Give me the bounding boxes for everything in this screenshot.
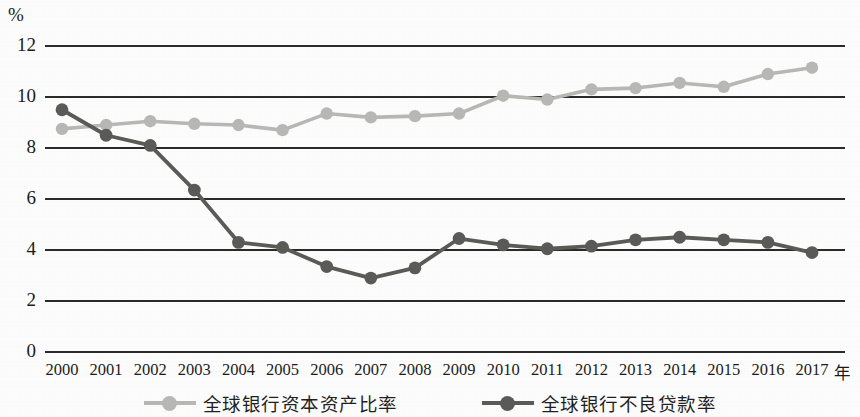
x-axis-tick-label: 2004 <box>216 360 260 380</box>
data-point-capital-asset-ratio <box>144 115 156 127</box>
data-point-capital-asset-ratio <box>585 83 597 95</box>
x-axis-tick-label: 2017 <box>790 360 834 380</box>
chart-figure: % 024681012 2000200120022003200420052006… <box>0 0 860 417</box>
x-axis-tick-label: 2012 <box>569 360 613 380</box>
data-point-npl-ratio <box>497 239 510 252</box>
x-axis-tick-label: 2009 <box>437 360 481 380</box>
data-point-npl-ratio <box>276 241 289 254</box>
data-point-capital-asset-ratio <box>806 61 818 73</box>
x-axis-tick-label: 2005 <box>261 360 305 380</box>
data-point-capital-asset-ratio <box>762 68 774 80</box>
data-point-capital-asset-ratio <box>718 81 730 93</box>
data-point-npl-ratio <box>320 260 333 273</box>
x-axis-tick-label: 2014 <box>658 360 702 380</box>
data-point-npl-ratio <box>364 272 377 285</box>
data-point-npl-ratio <box>806 246 819 259</box>
plot-area <box>0 0 860 417</box>
data-point-npl-ratio <box>717 233 730 246</box>
data-point-npl-ratio <box>541 242 554 255</box>
legend-label-capital-asset-ratio: 全球银行资本资产比率 <box>203 390 398 416</box>
x-axis-tick-label: 2001 <box>84 360 128 380</box>
x-axis-unit-label: 年 <box>834 360 851 384</box>
data-point-npl-ratio <box>188 184 201 197</box>
data-point-capital-asset-ratio <box>188 118 200 130</box>
data-point-npl-ratio <box>673 231 686 244</box>
data-point-npl-ratio <box>585 240 598 253</box>
data-point-npl-ratio <box>100 129 113 142</box>
data-point-capital-asset-ratio <box>321 107 333 119</box>
data-point-npl-ratio <box>453 232 466 245</box>
data-point-capital-asset-ratio <box>232 119 244 131</box>
x-axis-tick-label: 2015 <box>702 360 746 380</box>
data-point-npl-ratio <box>629 233 642 246</box>
data-point-capital-asset-ratio <box>629 82 641 94</box>
legend-label-npl-ratio: 全球银行不良贷款率 <box>541 390 717 416</box>
legend-item-capital-asset-ratio[interactable]: 全球银行资本资产比率 <box>144 390 398 416</box>
data-point-npl-ratio <box>144 139 157 152</box>
x-axis-tick-label: 2002 <box>128 360 172 380</box>
x-axis-tick-label: 2008 <box>393 360 437 380</box>
data-point-capital-asset-ratio <box>365 111 377 123</box>
series-line-capital-asset-ratio <box>62 68 812 130</box>
x-axis-tick-label: 2007 <box>349 360 393 380</box>
data-point-capital-asset-ratio <box>56 123 68 135</box>
data-point-npl-ratio <box>56 103 69 116</box>
legend-item-npl-ratio[interactable]: 全球银行不良贷款率 <box>482 390 717 416</box>
data-point-npl-ratio <box>232 236 245 249</box>
x-axis-tick-label: 2011 <box>525 360 569 380</box>
data-point-capital-asset-ratio <box>453 107 465 119</box>
legend-marker-icon-capital-asset-ratio <box>144 395 196 411</box>
data-point-npl-ratio <box>761 236 774 249</box>
data-point-capital-asset-ratio <box>673 77 685 89</box>
data-point-capital-asset-ratio <box>276 124 288 136</box>
x-axis-tick-label: 2006 <box>305 360 349 380</box>
legend-marker-icon-npl-ratio <box>482 395 534 411</box>
x-axis-tick-label: 2000 <box>40 360 84 380</box>
x-axis-tick-label: 2010 <box>481 360 525 380</box>
data-point-capital-asset-ratio <box>409 110 421 122</box>
x-axis-tick-label: 2003 <box>172 360 216 380</box>
data-point-capital-asset-ratio <box>497 90 509 102</box>
chart-legend: 全球银行资本资产比率 全球银行不良贷款率 <box>0 388 860 417</box>
data-point-npl-ratio <box>409 261 422 274</box>
series-line-npl-ratio <box>62 110 812 278</box>
x-axis-tick-label: 2016 <box>746 360 790 380</box>
x-axis-tick-label: 2013 <box>614 360 658 380</box>
data-point-capital-asset-ratio <box>541 93 553 105</box>
